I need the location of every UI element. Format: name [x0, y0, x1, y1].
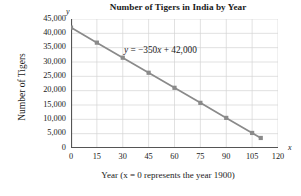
data-point-marker: [121, 56, 125, 60]
y-axis-tick-label: 30,000: [22, 57, 66, 66]
data-point-marker: [198, 101, 202, 105]
y-axis-tick-label: 40,000: [22, 28, 66, 37]
x-axis-caption: Year (x = 0 represents the year 1900): [48, 170, 288, 180]
y-axis-tick-labels: 05,00010,00015,00020,00025,00030,00035,0…: [22, 19, 66, 148]
y-axis-tick-label: 15,000: [22, 100, 66, 109]
y-axis-variable-label: y: [66, 7, 70, 16]
x-axis-tick-label: 120: [263, 152, 293, 161]
y-axis-tick-label: 45,000: [22, 14, 66, 23]
y-axis-tick-label: 25,000: [22, 71, 66, 80]
equation-equals: = −350: [128, 45, 157, 55]
grid-lines: [71, 19, 278, 148]
y-axis-tick-label: 5,000: [22, 128, 66, 137]
data-point-marker: [224, 116, 228, 120]
data-point-marker: [71, 26, 73, 30]
y-axis-tick-label: 10,000: [22, 114, 66, 123]
y-axis-tick-label: 0: [22, 143, 66, 152]
data-point-marker: [172, 86, 176, 90]
equation-annotation: y = −350x + 42,000: [124, 45, 197, 55]
x-axis-tick-labels: 0153045607590105120: [71, 152, 278, 166]
data-point-marker: [147, 71, 151, 75]
data-point-marker: [259, 136, 263, 140]
plot-area: [71, 19, 278, 148]
x-axis-variable-label: x: [288, 143, 292, 152]
chart-figure: Number of Tigers in India by Year y x Nu…: [0, 0, 301, 196]
plot-svg: [71, 19, 278, 148]
chart-title: Number of Tigers in India by Year: [78, 2, 278, 12]
data-point-marker: [250, 131, 254, 135]
data-point-marker: [95, 41, 99, 45]
y-axis-tick-label: 20,000: [22, 85, 66, 94]
equation-rhs: + 42,000: [161, 45, 196, 55]
y-axis-tick-label: 35,000: [22, 42, 66, 51]
